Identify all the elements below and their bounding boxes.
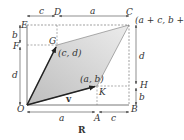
dim-bottom-right: c — [111, 113, 116, 123]
label-F: F — [12, 41, 20, 51]
label-A: A — [93, 113, 101, 123]
dim-top-left: c — [39, 6, 44, 16]
label-B: B — [130, 104, 138, 114]
parallelogram — [27, 25, 129, 105]
label-K: K — [98, 87, 107, 97]
label-E: E — [20, 20, 28, 30]
caption: R — [78, 125, 86, 135]
dim-left-bottom: d — [12, 70, 18, 80]
dim-top-right: a — [90, 6, 95, 16]
dim-right-bottom: b — [139, 92, 145, 102]
label-v-tip: (a, b) — [80, 74, 104, 84]
label-sum: (a + c, b + d) — [135, 15, 184, 25]
label-C: C — [126, 7, 133, 17]
label-O: O — [17, 104, 25, 114]
label-D: D — [53, 7, 61, 17]
dim-left-top: b — [12, 30, 18, 40]
parallelogram-diagram: E D C F G H K O A B (c, d) (a, b) (a + c… — [0, 0, 184, 140]
label-G: G — [49, 36, 56, 46]
label-u-tip: (c, d) — [58, 48, 82, 58]
label-v: v — [65, 94, 72, 104]
label-H: H — [139, 80, 148, 90]
dim-right-top: d — [139, 51, 145, 61]
dim-bottom-left: a — [59, 113, 64, 123]
